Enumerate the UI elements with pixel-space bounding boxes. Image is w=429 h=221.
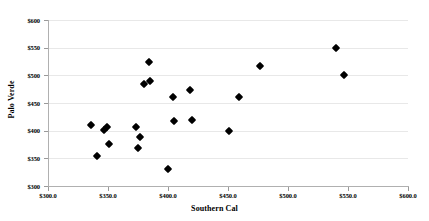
y-tick-mark (44, 48, 48, 49)
gridline-horizontal (48, 48, 408, 49)
x-tick-label: $550.0 (325, 192, 371, 200)
x-tick-label: $400.0 (145, 192, 191, 200)
x-tick-mark (108, 187, 109, 191)
x-tick-label: $600.0 (385, 192, 429, 200)
gridline-horizontal (48, 75, 408, 76)
y-tick-label: $350 (0, 155, 40, 162)
y-axis-title: Palo Verde (7, 50, 16, 150)
x-tick-mark (48, 187, 49, 191)
y-tick-mark (44, 131, 48, 132)
x-tick-mark (348, 187, 349, 191)
gridline-horizontal (48, 103, 408, 104)
x-tick-mark (408, 187, 409, 191)
y-tick-mark (44, 75, 48, 76)
x-tick-label: $300.0 (25, 192, 71, 200)
x-tick-label: $500.0 (265, 192, 311, 200)
plot-area (48, 20, 408, 186)
x-tick-label: $450.0 (205, 192, 251, 200)
y-tick-label: $300 (0, 183, 40, 190)
scatter-chart: $300$350$400$450$500$550$600 $300.0$350.… (0, 0, 429, 221)
x-tick-mark (168, 187, 169, 191)
x-tick-mark (288, 187, 289, 191)
y-tick-mark (44, 158, 48, 159)
y-axis-line (48, 20, 49, 187)
gridline-horizontal (48, 158, 408, 159)
x-tick-mark (228, 187, 229, 191)
gridline-horizontal (48, 20, 408, 21)
x-tick-label: $350.0 (85, 192, 131, 200)
x-axis-title: Southern Cal (0, 204, 429, 213)
y-tick-mark (44, 20, 48, 21)
y-tick-label: $600 (0, 17, 40, 24)
y-tick-mark (44, 103, 48, 104)
